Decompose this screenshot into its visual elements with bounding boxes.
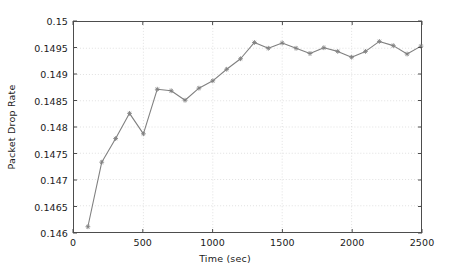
y-tick-label: 0.15 xyxy=(46,16,68,27)
chart-page: Packet Drop Rate 0.1460.14650.1470.14750… xyxy=(0,0,450,279)
y-tick-label: 0.146 xyxy=(40,228,68,239)
x-tick-label: 1500 xyxy=(270,237,295,248)
y-tick-label: 0.148 xyxy=(40,122,68,133)
y-tick-label: 0.1495 xyxy=(34,42,68,53)
y-tick-label: 0.149 xyxy=(40,69,68,80)
y-tick-label: 0.1485 xyxy=(34,95,68,106)
data-series-packet-drop-rate xyxy=(74,22,421,232)
y-axis-tick-labels: 0.1460.14650.1470.14750.1480.14850.1490.… xyxy=(0,0,68,279)
y-tick-label: 0.1475 xyxy=(34,148,68,159)
plot-area xyxy=(73,21,422,233)
x-axis-title: Time (sec) xyxy=(0,253,450,264)
x-tick-label: 2000 xyxy=(340,237,365,248)
x-tick-label: 1000 xyxy=(200,237,225,248)
y-tick-label: 0.147 xyxy=(40,175,68,186)
y-tick-label: 0.1465 xyxy=(34,201,68,212)
x-tick-label: 0 xyxy=(70,237,76,248)
x-tick-label: 2500 xyxy=(410,237,435,248)
x-tick-label: 500 xyxy=(134,237,152,248)
